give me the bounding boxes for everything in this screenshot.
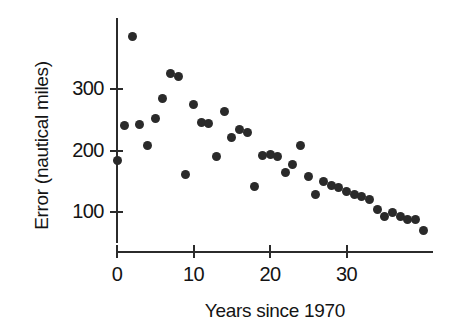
scatter-point bbox=[243, 128, 252, 137]
scatter-point bbox=[151, 114, 160, 123]
scatter-point bbox=[120, 121, 129, 130]
scatter-point bbox=[204, 119, 213, 128]
scatter-point bbox=[419, 226, 428, 235]
scatter-point bbox=[250, 182, 259, 191]
scatter-point bbox=[212, 152, 221, 161]
scatter-point bbox=[181, 170, 190, 179]
scatter-point bbox=[174, 72, 183, 81]
scatter-point bbox=[411, 215, 420, 224]
scatter-point bbox=[273, 152, 282, 161]
scatter-point bbox=[220, 107, 229, 116]
scatter-point bbox=[189, 100, 198, 109]
x-axis-title: Years since 1970 bbox=[117, 300, 433, 321]
scatter-point bbox=[143, 141, 152, 150]
y-axis-title: Error (nautical miles) bbox=[31, 31, 52, 261]
scatter-point bbox=[296, 141, 305, 150]
scatter-point bbox=[128, 32, 137, 41]
scatter-plot-figure: 300200100 0102030 Error (nautical miles)… bbox=[0, 0, 449, 333]
scatter-point bbox=[135, 120, 144, 129]
scatter-point bbox=[113, 156, 122, 165]
scatter-point bbox=[227, 133, 236, 142]
scatter-point bbox=[304, 172, 313, 181]
scatter-point bbox=[281, 168, 290, 177]
scatter-point-layer bbox=[0, 0, 449, 333]
scatter-point bbox=[158, 94, 167, 103]
scatter-point bbox=[288, 160, 297, 169]
scatter-point bbox=[311, 190, 320, 199]
scatter-point bbox=[365, 195, 374, 204]
